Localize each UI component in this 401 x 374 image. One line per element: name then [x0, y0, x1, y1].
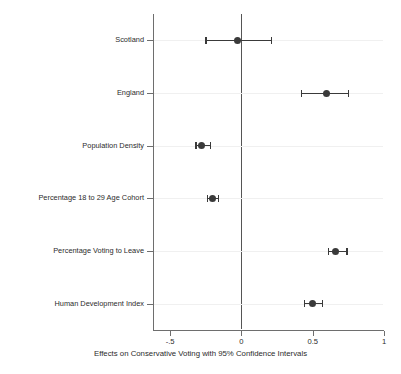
confidence-interval-cap-high: [218, 195, 219, 202]
x-axis-tick-label: 0.5: [307, 337, 318, 346]
confidence-interval-cap-high: [271, 37, 272, 44]
confidence-interval-cap-low: [304, 300, 305, 307]
grid-line: [153, 304, 383, 305]
y-axis-spine: [153, 14, 154, 330]
point-estimate-marker: [332, 248, 339, 255]
y-axis-label-percentage-18-to-29-age-cohort: Percentage 18 to 29 Age Cohort: [0, 194, 144, 202]
category-label: Percentage 18 to 29 Age Cohort: [38, 194, 144, 202]
x-axis-tick: [384, 331, 385, 336]
confidence-interval-cap-low: [301, 90, 302, 97]
confidence-interval-cap-high: [322, 300, 323, 307]
y-axis-tick: [147, 40, 153, 41]
x-axis-title: Effects on Conservative Voting with 95% …: [0, 349, 401, 359]
confidence-interval-cap-high: [348, 90, 349, 97]
zero-reference-line: [241, 14, 242, 329]
confidence-interval-cap-low: [207, 195, 208, 202]
x-axis-spine: [153, 330, 384, 331]
x-axis-tick-label: 1: [382, 337, 386, 346]
grid-line: [153, 146, 383, 147]
grid-line: [153, 198, 383, 199]
category-label: England: [117, 89, 144, 97]
grid-line: [153, 251, 383, 252]
point-estimate-marker: [323, 90, 330, 97]
confidence-interval-cap-high: [210, 142, 211, 149]
y-axis-label-scotland: Scotland: [0, 36, 144, 44]
y-axis-tick: [147, 93, 153, 94]
category-label: Scotland: [115, 36, 144, 44]
category-label: Percentage Voting to Leave: [53, 247, 144, 255]
y-axis-label-england: England: [0, 89, 144, 97]
x-axis-tick: [170, 331, 171, 336]
coefficient-plot: ScotlandEnglandPopulation DensityPercent…: [0, 0, 401, 374]
x-axis-tick-label: 0: [239, 337, 243, 346]
plot-area: [153, 14, 383, 329]
category-label: Human Development Index: [54, 300, 144, 308]
x-axis-tick-label: -.5: [166, 337, 175, 346]
y-axis-tick: [147, 304, 153, 305]
confidence-interval-cap-low: [328, 248, 329, 255]
y-axis-label-percentage-voting-to-leave: Percentage Voting to Leave: [0, 247, 144, 255]
category-label: Population Density: [82, 142, 144, 150]
confidence-interval-cap-low: [205, 37, 206, 44]
y-axis-tick: [147, 198, 153, 199]
chart-title: [0, 0, 401, 2]
y-axis-tick: [147, 146, 153, 147]
confidence-interval-cap-low: [195, 142, 196, 149]
y-axis-tick: [147, 251, 153, 252]
x-axis-tick: [313, 331, 314, 336]
x-axis-tick: [241, 331, 242, 336]
y-axis-label-population-density: Population Density: [0, 142, 144, 150]
y-axis-label-human-development-index: Human Development Index: [0, 300, 144, 308]
confidence-interval-cap-high: [346, 248, 347, 255]
